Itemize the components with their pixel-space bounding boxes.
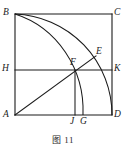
vertex-label-E: E xyxy=(96,47,102,57)
vertex-label-J: J xyxy=(70,117,74,127)
geometry-drawing xyxy=(0,0,126,157)
vertex-label-H: H xyxy=(2,64,9,74)
vertex-label-C: C xyxy=(114,8,120,18)
geometry-figure: B C H K E F A J G D 图 11 xyxy=(0,0,126,157)
vertex-label-D: D xyxy=(114,110,121,120)
figure-caption: 图 11 xyxy=(0,136,126,146)
arc-B-D xyxy=(15,14,112,115)
segment-AE xyxy=(15,56,96,115)
vertex-label-A: A xyxy=(3,110,9,120)
vertex-label-K: K xyxy=(114,64,120,74)
vertex-label-B: B xyxy=(3,8,9,18)
vertex-label-G: G xyxy=(80,117,87,127)
vertex-label-F: F xyxy=(70,58,76,68)
